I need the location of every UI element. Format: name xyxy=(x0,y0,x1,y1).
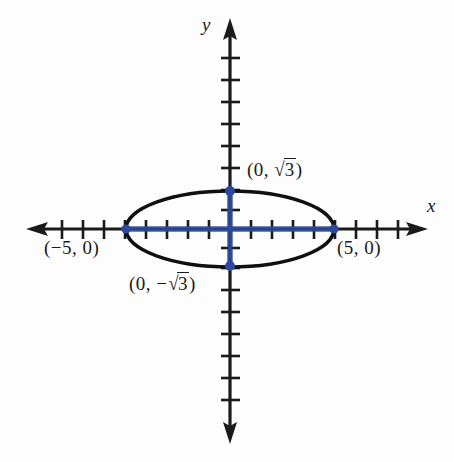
y-axis-label: y xyxy=(202,15,210,34)
vertex-left-point xyxy=(121,224,130,233)
covertex-top-label: (0, √3) xyxy=(247,157,303,179)
sqrt-icon: √3 xyxy=(168,271,189,293)
vertex-right-label: (5, 0) xyxy=(337,238,381,257)
covertex-bottom-point xyxy=(225,261,235,271)
covertex-top-close: ) xyxy=(296,159,303,180)
covertex-top-open: (0, xyxy=(247,159,269,180)
x-axis-label: x xyxy=(427,196,435,215)
ellipse-graph-figure: y x (0, √3) (0, −√3) (−5, 0) (5, 0) xyxy=(0,0,454,462)
covertex-bottom-minus: − xyxy=(156,273,167,294)
radical-sign: √ xyxy=(275,159,286,179)
vertex-left-label: (−5, 0) xyxy=(44,238,99,257)
covertex-bottom-open: (0, xyxy=(129,273,151,294)
covertex-bottom-close: ) xyxy=(189,273,196,294)
sqrt-icon: √3 xyxy=(274,157,295,179)
covertex-bottom-label: (0, −√3) xyxy=(129,271,196,293)
covertex-top-point xyxy=(225,186,235,196)
vertex-right-point xyxy=(329,224,338,233)
radical-sign: √ xyxy=(168,273,179,293)
coordinate-plane-svg xyxy=(0,0,454,462)
radicand: 3 xyxy=(284,158,296,179)
